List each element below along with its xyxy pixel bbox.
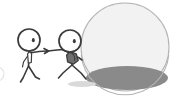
left-figure-legs-icon: [21, 66, 40, 82]
left-stick-figure: [18, 29, 47, 82]
right-figure-eye-icon: [73, 39, 76, 43]
illustration-svg: [0, 0, 180, 99]
sphere-group: [81, 3, 169, 95]
grip-rope-icon: [48, 50, 63, 52]
ground-shadow-smudge-icon: [68, 81, 96, 87]
grip-link-group: [44, 49, 63, 54]
right-figure-legs-icon: [59, 65, 87, 79]
left-figure-necktie-icon: [28, 52, 32, 64]
partial-circle-left-edge-icon: [0, 67, 4, 81]
illustration-canvas: [0, 0, 180, 99]
left-figure-eye-icon: [32, 38, 35, 42]
left-figure-head-icon: [18, 29, 40, 51]
right-figure-head-icon: [59, 30, 81, 52]
